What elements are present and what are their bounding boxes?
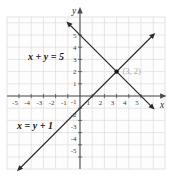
y-tick-label: 1	[73, 80, 77, 88]
graph-figure: -5-4-3-2-112345-5-4-3-2-112345 x + y = 5…	[0, 0, 170, 176]
x-tick-label: 3	[111, 99, 115, 107]
y-axis-label: y	[71, 6, 77, 16]
equation-label-line2: x = y + 1	[16, 120, 53, 131]
x-tick-label: -4	[24, 99, 30, 107]
x-axis-label: x	[159, 100, 165, 110]
y-tick-label: -4	[71, 135, 77, 143]
y-tick-label: 5	[73, 32, 77, 40]
x-tick-label: 4	[123, 99, 127, 107]
x-tick-label: -2	[49, 99, 55, 107]
intersection-point	[114, 69, 118, 73]
x-tick-label: -3	[36, 99, 42, 107]
y-tick-label: 3	[73, 56, 77, 64]
y-tick-label: 2	[73, 68, 77, 76]
equation-label-line1: x + y = 5	[27, 51, 64, 62]
y-axis-arrowhead	[77, 7, 83, 13]
x-tick-label: 2	[99, 99, 103, 107]
intersection-point-label: (3, 2)	[123, 66, 142, 76]
x-tick-label: -5	[12, 99, 18, 107]
y-tick-label: -5	[71, 147, 77, 155]
y-tick-label: 4	[73, 44, 77, 52]
intersection	[114, 69, 118, 73]
y-tick-label: -3	[71, 123, 77, 131]
y-tick-label: -1	[71, 98, 77, 106]
x-tick-label: 5	[135, 99, 139, 107]
x-tick-label: -1	[61, 99, 67, 107]
coordinate-plane: -5-4-3-2-112345-5-4-3-2-112345 x + y = 5…	[0, 0, 170, 176]
